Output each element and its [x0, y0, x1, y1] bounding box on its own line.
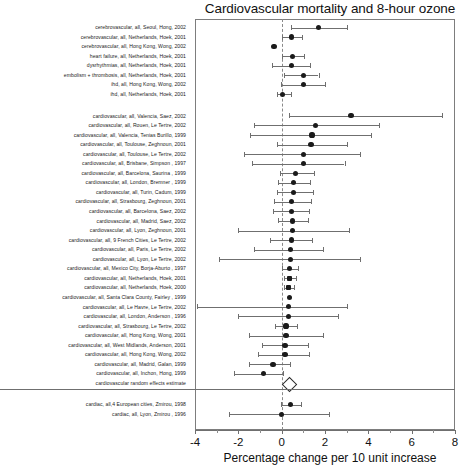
x-minor-tick [390, 430, 391, 433]
confidence-interval-cap [244, 152, 245, 157]
point-estimate-marker [313, 123, 318, 128]
point-estimate-marker [283, 323, 288, 328]
study-label: cardiovascular, all, Toulouse, Le Tertre… [0, 151, 190, 157]
x-minor-tick [433, 430, 434, 433]
x-tick-label: 0 [267, 436, 297, 448]
confidence-interval-cap [297, 324, 298, 329]
study-label: cardiovascular, all, Hong Kong, Wong, 20… [0, 332, 190, 338]
study-label: cardiac, all,4 European cities, Zmirou, … [0, 401, 190, 407]
study-label: cardiovascular, all, Toulouse, Zeghnoun,… [0, 141, 190, 147]
point-estimate-marker [287, 295, 292, 300]
x-minor-tick [347, 430, 348, 433]
point-estimate-marker [289, 209, 294, 214]
point-estimate-marker [290, 218, 295, 223]
confidence-interval-cap [314, 171, 315, 176]
point-estimate-marker [316, 25, 321, 30]
study-label: cardiovascular, all, 9 French Cities, Le… [0, 237, 190, 243]
study-label: cardiovascular, all, Le Havre, Le Tertre… [0, 304, 190, 310]
study-label: cardiovascular, all, Hong Kong, Wong, 20… [0, 351, 190, 357]
study-label: cardiovascular random effects estimate [0, 380, 190, 386]
confidence-interval-cap [302, 35, 303, 40]
point-estimate-marker [289, 199, 294, 204]
confidence-interval-cap [310, 180, 311, 185]
confidence-interval-cap [258, 352, 259, 357]
study-label: cerebrovascular, all, Seoul, Hong, 2002 [0, 24, 190, 30]
confidence-interval-cap [308, 218, 309, 223]
confidence-interval-cap [311, 199, 312, 204]
study-label: cardiovascular, all, Inchon, Hong, 1999 [0, 370, 190, 376]
study-label: cerebrovascular, all, Hong Kong, Wong, 2… [0, 43, 190, 49]
confidence-interval-cap [282, 54, 283, 59]
confidence-interval-cap [329, 412, 330, 417]
confidence-interval-cap [250, 133, 251, 138]
confidence-interval-cap [277, 142, 278, 147]
confidence-interval-cap [325, 82, 326, 87]
confidence-interval-cap [249, 333, 250, 338]
confidence-interval-cap [238, 228, 239, 233]
x-tick [195, 430, 196, 434]
point-estimate-marker [282, 343, 287, 348]
point-estimate-marker [288, 247, 293, 252]
confidence-interval-cap [277, 92, 278, 97]
confidence-interval-cap [289, 113, 290, 118]
confidence-interval-cap [291, 25, 292, 30]
study-label: cardiovascular, all, London, Bremner , 1… [0, 179, 190, 185]
confidence-interval-cap [301, 402, 302, 407]
forest-plot-rows: cerebrovascular, all, Seoul, Hong, 2002c… [0, 0, 465, 471]
x-tick-label: 2 [310, 436, 340, 448]
study-label: heart failure, all, Netherlands, Hoek, 2… [0, 53, 190, 59]
point-estimate-marker [309, 132, 314, 137]
point-estimate-marker [289, 34, 294, 39]
point-estimate-marker [348, 113, 353, 118]
point-estimate-marker [283, 333, 288, 338]
point-estimate-marker [271, 44, 276, 49]
study-label: cardiovascular, all, West Midlands, Ande… [0, 342, 190, 348]
confidence-interval-cap [272, 63, 273, 68]
study-label: cardiovascular, all, Madrid, Saez, 2002 [0, 218, 190, 224]
confidence-interval-cap [338, 314, 339, 319]
x-tick-label: 6 [397, 436, 427, 448]
study-label: ihd, all, Hong Kong, Wong, 2002 [0, 81, 190, 87]
x-tick [412, 430, 413, 434]
confidence-interval-cap [360, 257, 361, 262]
confidence-interval-cap [310, 63, 311, 68]
point-estimate-marker [286, 285, 291, 290]
study-label: cardiovascular, all, Barcelona, Saez, 20… [0, 208, 190, 214]
study-label: cardiac, all, Lyon, Zmirou , 1996 [0, 411, 190, 417]
confidence-interval-cap [262, 343, 263, 348]
point-estimate-marker [288, 402, 293, 407]
point-estimate-marker [308, 142, 313, 147]
confidence-interval-cap [238, 314, 239, 319]
point-estimate-marker [293, 171, 298, 176]
confidence-interval-cap [291, 92, 292, 97]
confidence-interval-cap [278, 180, 279, 185]
point-estimate-marker [289, 237, 294, 242]
confidence-interval-cap [282, 35, 283, 40]
x-tick [282, 430, 283, 434]
point-estimate-marker [301, 73, 306, 78]
confidence-interval-cap [347, 142, 348, 147]
confidence-interval-cap [379, 123, 380, 128]
x-axis-label: Percentage change per 10 unit increase [195, 451, 465, 465]
study-label: cardiovascular, all, Valencia, Tenias Bu… [0, 132, 190, 138]
confidence-interval-cap [249, 362, 250, 367]
study-label: cardiovascular, all, Turin, Cadum, 1999 [0, 189, 190, 195]
point-estimate-marker [286, 314, 291, 319]
point-estimate-marker [279, 412, 284, 417]
confidence-interval-line [289, 116, 442, 117]
pooled-estimate-diamond [281, 377, 297, 393]
confidence-interval-cap [347, 25, 348, 30]
confidence-interval-cap [284, 285, 285, 290]
confidence-interval-cap [274, 199, 275, 204]
confidence-interval-cap [252, 161, 253, 166]
confidence-interval-cap [347, 304, 348, 309]
point-estimate-marker [270, 362, 275, 367]
confidence-interval-cap [197, 304, 198, 309]
confidence-interval-cap [308, 343, 309, 348]
study-label: cerebrovascular, all, Netherlands, Hoek,… [0, 34, 190, 40]
point-estimate-marker [289, 63, 294, 68]
point-estimate-marker [261, 371, 266, 376]
confidence-interval-cap [284, 276, 285, 281]
confidence-interval-cap [281, 82, 282, 87]
study-label: cardiovascular, all, Santa Clara County,… [0, 294, 190, 300]
